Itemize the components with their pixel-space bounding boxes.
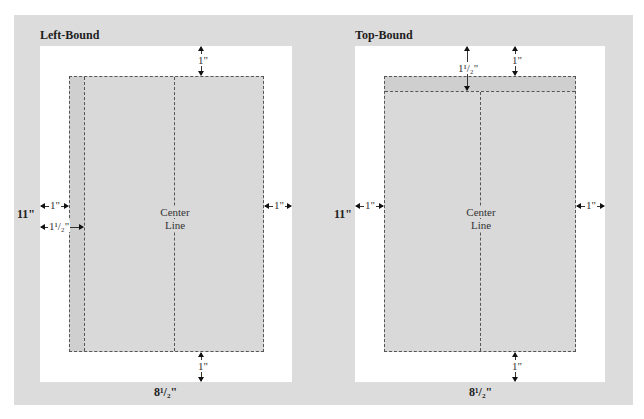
left-width-label: 8¹/₂"	[154, 385, 177, 400]
top-binding-strip	[385, 77, 575, 91]
top-width-label: 8¹/₂"	[469, 385, 492, 400]
top-left-margin-label: 1"	[364, 199, 376, 211]
top-binding-margin-label: 1¹/₂"	[457, 62, 479, 74]
left-bottom-margin-label: 1"	[197, 360, 209, 372]
left-center-label: Center Line	[152, 206, 198, 232]
left-binding-margin-label: 1¹/₂"	[48, 220, 70, 232]
left-right-margin-label: 1"	[273, 199, 285, 211]
left-binding-strip	[70, 77, 84, 351]
top-top-margin-label: 1"	[511, 54, 523, 66]
top-bound-title: Top-Bound	[355, 28, 413, 43]
left-bound-title: Left-Bound	[40, 28, 99, 43]
top-right-margin-label: 1"	[585, 199, 597, 211]
top-bottom-margin-label: 1"	[511, 360, 523, 372]
left-binding-line	[84, 77, 85, 351]
left-margin-label: 1"	[49, 199, 61, 211]
left-height-label: 11"	[17, 207, 35, 222]
top-height-label: 11"	[334, 207, 352, 222]
left-top-margin-label: 1"	[197, 54, 209, 66]
top-center-label: Center Line	[458, 206, 504, 232]
